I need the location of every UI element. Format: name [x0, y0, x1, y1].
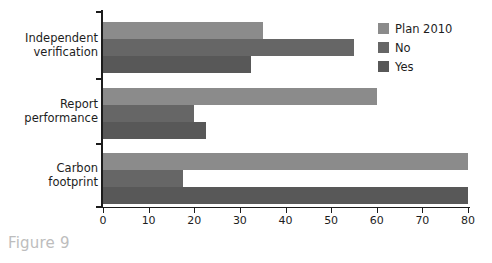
y-axis-tick [96, 206, 103, 208]
category-label-report-performance: Report performance [0, 97, 98, 125]
y-axis-tick [96, 78, 103, 80]
x-axis-tick-30 [240, 208, 241, 213]
legend-swatch-yes-icon [378, 61, 389, 72]
x-axis-tick-label-70: 70 [407, 214, 437, 227]
x-axis-tick-label-30: 30 [225, 214, 255, 227]
bar-carbon-footprint-yes [103, 187, 468, 204]
x-axis-tick-10 [149, 208, 150, 213]
bar-carbon-footprint-plan-2010 [103, 153, 468, 170]
x-axis-tick-60 [377, 208, 378, 213]
legend-item-plan-2010: Plan 2010 [378, 20, 452, 37]
bar-independent-verification-no [103, 39, 354, 56]
legend-label-plan-2010: Plan 2010 [395, 22, 452, 36]
bar-report-performance-plan-2010 [103, 88, 377, 105]
figure-9-chart: 01020304050607080 Independent verificati… [0, 0, 492, 263]
x-axis-tick-70 [422, 208, 423, 213]
x-axis-tick-label-0: 0 [88, 214, 118, 227]
bar-report-performance-no [103, 105, 194, 122]
y-axis-tick [96, 143, 103, 145]
legend-label-no: No [395, 41, 411, 55]
x-axis-tick-40 [286, 208, 287, 213]
figure-caption: Figure 9 [8, 234, 70, 252]
x-axis-tick-50 [331, 208, 332, 213]
category-label-line1: Report [0, 97, 98, 111]
legend-item-no: No [378, 39, 452, 56]
x-axis-tick-0 [103, 208, 104, 213]
x-axis-tick-20 [194, 208, 195, 213]
category-label-line1: Independent [0, 31, 98, 45]
x-axis-tick-label-10: 10 [134, 214, 164, 227]
legend-label-yes: Yes [395, 60, 414, 74]
category-label-line2: performance [0, 111, 98, 125]
legend: Plan 2010 No Yes [378, 20, 452, 77]
x-axis-tick-80 [468, 208, 469, 213]
x-axis-tick-label-50: 50 [316, 214, 346, 227]
legend-item-yes: Yes [378, 58, 452, 75]
x-axis-tick-label-80: 80 [453, 214, 483, 227]
bar-report-performance-yes [103, 122, 206, 139]
category-label-line2: footprint [0, 175, 98, 189]
legend-swatch-plan-2010-icon [378, 23, 389, 34]
category-label-line1: Carbon [0, 161, 98, 175]
x-axis-tick-label-20: 20 [179, 214, 209, 227]
x-axis-tick-label-40: 40 [271, 214, 301, 227]
y-axis-tick [96, 11, 103, 13]
x-axis-tick-label-60: 60 [362, 214, 392, 227]
category-label-carbon-footprint: Carbon footprint [0, 161, 98, 189]
bar-independent-verification-yes [103, 56, 251, 73]
category-label-independent-verification: Independent verification [0, 31, 98, 59]
bar-carbon-footprint-no [103, 170, 183, 187]
bar-independent-verification-plan-2010 [103, 22, 263, 39]
category-label-line2: verification [0, 45, 98, 59]
legend-swatch-no-icon [378, 42, 389, 53]
